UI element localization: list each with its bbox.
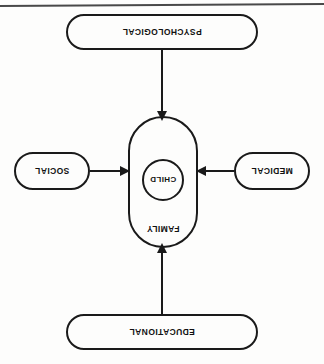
- node-social: SOCIAL: [14, 152, 90, 190]
- connector-psychological-to-family: [161, 50, 163, 116]
- node-child: CHILD: [142, 159, 184, 201]
- node-educational: EDUCATIONAL: [66, 314, 258, 350]
- diagram-content: PSYCHOLOGICAL MEDICAL EDUCATIONAL SOCIAL…: [0, 0, 324, 364]
- connector-educational-to-family: [161, 248, 163, 314]
- node-medical: MEDICAL: [234, 152, 310, 190]
- diagram-canvas: PSYCHOLOGICAL MEDICAL EDUCATIONAL SOCIAL…: [0, 0, 324, 364]
- node-psychological: PSYCHOLOGICAL: [66, 14, 258, 50]
